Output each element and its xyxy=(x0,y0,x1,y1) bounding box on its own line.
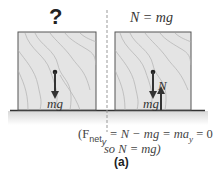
panel-label: (a) xyxy=(114,155,129,169)
right-weight-label: mg xyxy=(143,96,159,112)
conclusion-equation: so N = mg) xyxy=(104,142,161,157)
left-question-label: ? xyxy=(49,4,62,30)
right-normal-label: N xyxy=(158,78,167,94)
left-weight-label: mg xyxy=(47,96,63,112)
floor-surface xyxy=(8,111,208,125)
right-equation-label: N = mg xyxy=(130,10,173,26)
